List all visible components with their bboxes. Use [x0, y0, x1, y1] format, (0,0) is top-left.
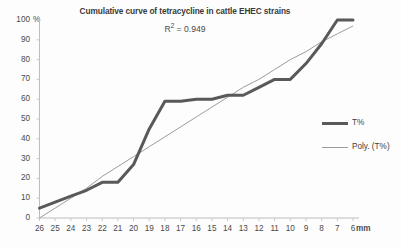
- legend-swatch-series: [322, 122, 348, 125]
- chart-legend: T%Poly. (T%): [322, 116, 390, 164]
- legend-item[interactable]: T%: [322, 116, 390, 130]
- legend-label: T%: [352, 119, 364, 127]
- legend-swatch-trend: [322, 147, 348, 148]
- chart-container: Cumulative curve of tetracycline in catt…: [0, 0, 401, 248]
- series-line-t-percent: [40, 20, 354, 208]
- legend-label: Poly. (T%): [352, 143, 390, 151]
- legend-item[interactable]: Poly. (T%): [322, 140, 390, 154]
